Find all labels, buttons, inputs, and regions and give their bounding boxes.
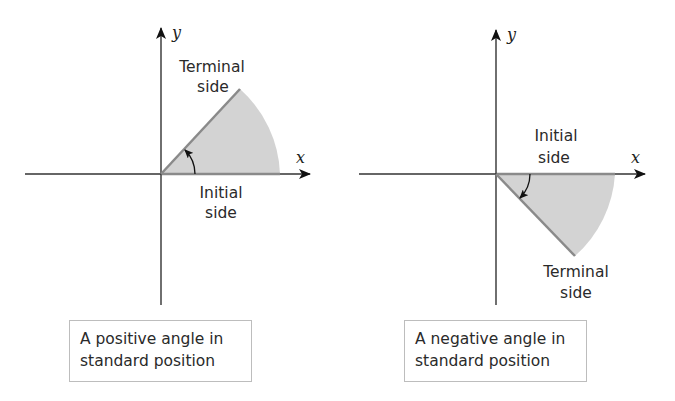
y-axis-label: y (506, 25, 517, 44)
x-axis-label: x (631, 148, 640, 167)
terminal-label-line2: side (560, 284, 592, 302)
negative-angle-figure: y x Initial side Terminal side (359, 25, 645, 305)
positive-angle-caption: A positive angle in standard position (69, 320, 252, 382)
negative-angle-sector (496, 174, 615, 256)
y-axis-label: y (171, 23, 182, 42)
terminal-label-line1: Terminal (542, 263, 609, 281)
terminal-label-line1: Terminal (178, 58, 245, 76)
caption-line2: standard position (415, 350, 576, 372)
negative-angle-caption: A negative angle in standard position (404, 320, 587, 382)
caption-line2: standard position (80, 350, 241, 372)
caption-line1: A positive angle in (80, 328, 241, 350)
initial-label-line1: Initial (200, 184, 243, 202)
initial-label-line2: side (538, 149, 570, 167)
positive-angle-sector (161, 89, 280, 174)
terminal-label-line2: side (197, 78, 229, 96)
initial-label-line1: Initial (535, 127, 578, 145)
x-axis-label: x (296, 148, 305, 167)
positive-angle-figure: y x Terminal side Initial side (25, 23, 310, 305)
initial-label-line2: side (205, 204, 237, 222)
caption-line1: A negative angle in (415, 328, 576, 350)
